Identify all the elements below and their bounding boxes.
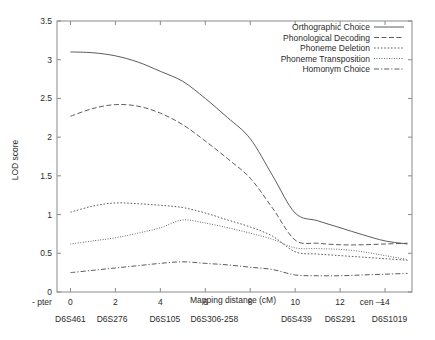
legend-label-3: Phoneme Transposition <box>281 54 371 64</box>
y-tick-label: 2.5 <box>40 93 52 103</box>
chart-legend: Orthographic ChoicePhonological Decoding… <box>281 22 404 74</box>
y-tick-label: 0.5 <box>40 248 52 258</box>
y-tick-label: 3.5 <box>40 16 52 26</box>
legend-label-1: Phonological Decoding <box>283 33 370 43</box>
marker-labels: D6S461D6S276D6S105D6S306-258D6S439D6S291… <box>55 314 407 324</box>
chromosome-annotation: - pter <box>32 297 52 307</box>
y-tick-label: 0 <box>47 287 52 297</box>
genetic-marker-label: D6S439 <box>281 314 312 324</box>
y-tick-label: 2 <box>47 132 52 142</box>
y-tick-label: 1 <box>47 210 52 220</box>
series-line-1 <box>70 104 407 244</box>
chart-canvas: 00.511.522.533.5 02468101214 Orthographi… <box>0 0 435 340</box>
x-tick-label: 0 <box>68 297 73 307</box>
series-line-3 <box>70 220 407 260</box>
legend-label-4: Homonym Choice <box>302 64 370 74</box>
x-axis-title: Mapping distance (cM) <box>190 295 276 305</box>
series-line-0 <box>70 52 407 244</box>
lod-score-chart: 00.511.522.533.5 02468101214 Orthographi… <box>0 0 435 340</box>
data-series <box>70 52 407 276</box>
y-tick-label: 1.5 <box>40 171 52 181</box>
legend-label-2: Phoneme Deletion <box>300 43 370 53</box>
genetic-marker-label: D6S461 <box>55 314 86 324</box>
x-tick-label: 2 <box>113 297 118 307</box>
genetic-marker-label: D6S105 <box>149 314 180 324</box>
y-tick-labels: 00.511.522.533.5 <box>40 16 52 297</box>
genetic-marker-label: D6S276 <box>97 314 128 324</box>
series-line-2 <box>70 203 407 260</box>
x-tick-label: 10 <box>290 297 300 307</box>
chromosome-annotation: cen — <box>360 297 385 307</box>
legend-label-0: Orthographic Choice <box>292 22 370 32</box>
x-tick-label: 12 <box>335 297 345 307</box>
genetic-marker-label: D6S291 <box>325 314 356 324</box>
x-tick-label: 4 <box>158 297 163 307</box>
genetic-marker-label: D6S306-258 <box>190 314 238 324</box>
y-tick-label: 3 <box>47 55 52 65</box>
series-line-4 <box>70 262 407 276</box>
genetic-marker-label: D6S1019 <box>372 314 408 324</box>
y-axis-title: LOD score <box>10 139 20 180</box>
